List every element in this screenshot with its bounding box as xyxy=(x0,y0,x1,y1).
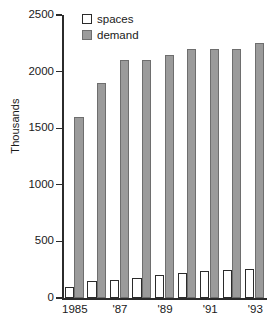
legend-item-spaces: spaces xyxy=(82,12,139,26)
bar-group xyxy=(199,15,222,298)
y-axis-tick-label: 2000 xyxy=(2,66,54,78)
legend-swatch-demand-icon xyxy=(82,30,92,40)
bar-group xyxy=(109,15,132,298)
bar-group xyxy=(244,15,267,298)
legend-swatch-spaces-icon xyxy=(82,14,92,24)
bar-demand-1992 xyxy=(232,49,241,298)
bar-spaces-1993 xyxy=(245,269,254,298)
legend-label: spaces xyxy=(97,13,133,25)
x-axis-tick-label: 1985 xyxy=(55,303,95,315)
bar-demand-1993 xyxy=(255,43,264,298)
bar-group xyxy=(221,15,244,298)
y-axis-tick-label: 500 xyxy=(2,235,54,247)
y-axis-tick-label: 1000 xyxy=(2,179,54,191)
x-axis-tick-label: '91 xyxy=(190,303,230,315)
bar-demand-1989 xyxy=(165,55,174,298)
bar-demand-1991 xyxy=(210,49,219,298)
x-axis-tick-label: '89 xyxy=(145,303,185,315)
bar-demand-1990 xyxy=(187,49,196,298)
bar-spaces-1986 xyxy=(87,281,96,298)
bar-spaces-1992 xyxy=(223,270,232,298)
bar-spaces-1989 xyxy=(155,275,164,298)
bar-group xyxy=(176,15,199,298)
bar-demand-1988 xyxy=(142,60,151,298)
x-axis-tick-label: '87 xyxy=(100,303,140,315)
plot-area xyxy=(64,15,267,298)
bar-chart: Thousands 05001000150020002500 1985'87'8… xyxy=(0,0,277,329)
bar-demand-1985 xyxy=(74,117,83,298)
bar-spaces-1988 xyxy=(132,278,141,298)
y-axis-tick-label: 1500 xyxy=(2,122,54,134)
bar-group xyxy=(86,15,109,298)
bar-group xyxy=(154,15,177,298)
legend-item-demand: demand xyxy=(82,28,139,42)
bar-spaces-1991 xyxy=(200,271,209,298)
y-axis-tick-label: 2500 xyxy=(2,9,54,21)
bar-spaces-1990 xyxy=(178,273,187,298)
bar-demand-1986 xyxy=(97,83,106,298)
y-axis-tick-label: 0 xyxy=(2,292,54,304)
bar-group xyxy=(131,15,154,298)
bar-demand-1987 xyxy=(120,60,129,298)
x-axis-line xyxy=(62,298,267,300)
bar-spaces-1987 xyxy=(110,280,119,298)
bar-group xyxy=(64,15,87,298)
legend-label: demand xyxy=(97,29,139,41)
chart-legend: spacesdemand xyxy=(82,12,139,44)
x-axis-tick-label: '93 xyxy=(235,303,275,315)
bar-spaces-1985 xyxy=(65,287,74,298)
